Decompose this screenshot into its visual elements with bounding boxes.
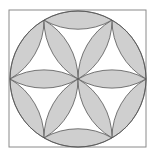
inner-petal (78, 70, 146, 88)
inner-petal (10, 70, 78, 88)
geometric-diagram (0, 0, 161, 162)
outer-lens (44, 11, 112, 29)
outer-lens (44, 129, 112, 147)
